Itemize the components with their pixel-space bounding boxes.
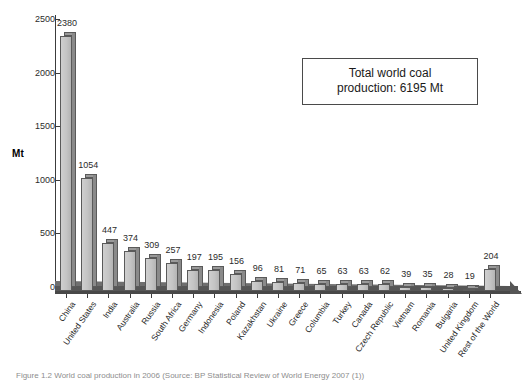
bar-side-face bbox=[454, 284, 458, 287]
x-axis-tick-mark bbox=[130, 294, 131, 298]
bar-side-face bbox=[114, 239, 118, 287]
bar-front-face bbox=[230, 274, 242, 291]
bar-side-face bbox=[178, 259, 182, 287]
bar[interactable] bbox=[60, 32, 72, 291]
y-axis-tick-label: 2000 bbox=[11, 69, 55, 78]
bar-front-face bbox=[60, 36, 72, 291]
chart-floor-face bbox=[55, 291, 521, 294]
bar-side-face bbox=[326, 280, 330, 287]
y-axis-tick-label: 500 bbox=[11, 229, 55, 238]
y-axis-tick-label: 1500 bbox=[11, 122, 55, 131]
total-annotation-line1: Total world coal bbox=[307, 66, 473, 81]
bar-side-face bbox=[72, 32, 76, 287]
x-axis-tick-mark bbox=[299, 294, 300, 298]
bar[interactable] bbox=[230, 270, 242, 291]
x-axis-tick-mark bbox=[448, 294, 449, 298]
x-axis-tick-mark bbox=[363, 294, 364, 298]
x-axis-tick-mark bbox=[108, 294, 109, 298]
bar[interactable] bbox=[124, 247, 136, 291]
bar-side-face bbox=[242, 270, 246, 287]
bar-front-face bbox=[102, 243, 114, 291]
y-axis-tick-label: 2500 bbox=[11, 15, 55, 24]
x-axis-tick-mark bbox=[490, 294, 491, 298]
bar[interactable] bbox=[314, 280, 326, 291]
bar-side-face bbox=[263, 277, 267, 287]
x-axis-tick-mark bbox=[214, 294, 215, 298]
bar-front-face bbox=[81, 178, 93, 291]
bar-value-label: 19 bbox=[456, 272, 484, 281]
bar-front-face bbox=[251, 281, 263, 291]
bar-front-face bbox=[399, 287, 411, 291]
bar-side-face bbox=[305, 279, 309, 287]
x-axis-tick-mark bbox=[87, 294, 88, 298]
bar[interactable] bbox=[251, 277, 263, 291]
bar[interactable] bbox=[81, 174, 93, 291]
bar-front-face bbox=[166, 263, 178, 291]
bar[interactable] bbox=[208, 266, 220, 291]
bar-front-face bbox=[272, 282, 284, 291]
bar-value-label: 1054 bbox=[74, 161, 102, 170]
bar-value-label: 204 bbox=[477, 252, 505, 261]
bar-side-face bbox=[348, 280, 352, 287]
x-axis-tick-mark bbox=[151, 294, 152, 298]
bar[interactable] bbox=[336, 280, 348, 291]
x-axis-tick-mark bbox=[257, 294, 258, 298]
bar-side-face bbox=[390, 280, 394, 287]
x-axis-tick-mark bbox=[66, 294, 67, 298]
bar[interactable] bbox=[187, 266, 199, 291]
bar[interactable] bbox=[378, 280, 390, 291]
bar[interactable] bbox=[442, 284, 454, 291]
bar[interactable] bbox=[272, 278, 284, 291]
x-axis-tick-mark bbox=[193, 294, 194, 298]
x-axis-category-label: Ukraine bbox=[265, 300, 289, 329]
x-axis-tick-mark bbox=[172, 294, 173, 298]
bar-side-face bbox=[475, 285, 479, 287]
x-axis-tick-mark bbox=[384, 294, 385, 298]
bar-side-face bbox=[496, 265, 500, 287]
x-axis-tick-mark bbox=[320, 294, 321, 298]
bar[interactable] bbox=[145, 254, 157, 291]
bar[interactable] bbox=[420, 283, 432, 291]
figure-caption: Figure 1.2 World coal production in 2006… bbox=[16, 371, 516, 380]
x-axis-tick-mark bbox=[469, 294, 470, 298]
bar-side-face bbox=[284, 278, 288, 287]
x-axis-category-label: India bbox=[102, 300, 120, 320]
bar-side-face bbox=[157, 254, 161, 287]
bar-front-face bbox=[314, 284, 326, 291]
bar-side-face bbox=[199, 266, 203, 287]
bar-front-face bbox=[463, 289, 475, 291]
bar[interactable] bbox=[463, 285, 475, 291]
bar-side-face bbox=[411, 283, 415, 287]
bar[interactable] bbox=[399, 283, 411, 291]
bar-front-face bbox=[378, 284, 390, 291]
bar-front-face bbox=[420, 287, 432, 291]
bar-side-face bbox=[136, 247, 140, 287]
bar-front-face bbox=[145, 258, 157, 291]
x-axis-tick-mark bbox=[278, 294, 279, 298]
y-axis-title: Mt bbox=[12, 148, 24, 159]
y-axis-tick-label: 0 bbox=[11, 283, 55, 292]
bar-side-face bbox=[432, 283, 436, 287]
bar-front-face bbox=[336, 284, 348, 291]
y-axis-tick-label: 1000 bbox=[11, 176, 55, 185]
bar-front-face bbox=[484, 269, 496, 291]
x-axis-tick-mark bbox=[236, 294, 237, 298]
bar[interactable] bbox=[484, 265, 496, 291]
bar-front-face bbox=[442, 288, 454, 291]
x-axis-tick-mark bbox=[426, 294, 427, 298]
x-axis-tick-mark bbox=[342, 294, 343, 298]
bar[interactable] bbox=[166, 259, 178, 291]
y-axis-line bbox=[55, 15, 56, 293]
bar-chart-plot: 05001000150020002500 Mt 2380China1054Uni… bbox=[0, 0, 529, 380]
bar-front-face bbox=[293, 283, 305, 291]
bar-value-label: 2380 bbox=[53, 19, 81, 28]
bar[interactable] bbox=[357, 280, 369, 291]
bar-side-face bbox=[220, 266, 224, 287]
bar[interactable] bbox=[293, 279, 305, 291]
chart-floor-right-edge bbox=[510, 281, 522, 294]
bar-front-face bbox=[208, 270, 220, 291]
bar[interactable] bbox=[102, 239, 114, 291]
bar-side-face bbox=[369, 280, 373, 287]
total-annotation-line2: production: 6195 Mt bbox=[307, 81, 473, 96]
bar-front-face bbox=[357, 284, 369, 291]
